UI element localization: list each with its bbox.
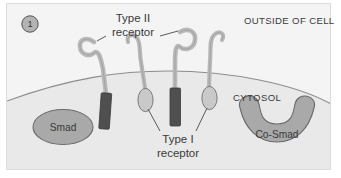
- panel-number-badge: 1: [22, 16, 38, 32]
- smad-label: Smad: [50, 122, 77, 133]
- type-i-label-line2: receptor: [157, 147, 199, 159]
- signaling-diagram: Smad Co-Smad 1 Type II receptor Type I r…: [0, 0, 341, 178]
- co-smad-label: Co-Smad: [255, 129, 298, 140]
- smad-protein[interactable]: Smad: [33, 110, 93, 145]
- type-i-receptor-right-kinase-domain: [202, 86, 217, 109]
- outside-of-cell-label: OUTSIDE OF CELL: [244, 15, 335, 26]
- figure-panel: Smad Co-Smad 1 Type II receptor Type I r…: [0, 0, 341, 178]
- type-i-label-line1: Type I: [162, 133, 193, 145]
- type-ii-receptor-left-transmembrane-domain: [99, 93, 112, 130]
- type-i-receptor-left-kinase-domain: [138, 88, 153, 111]
- type-ii-label-line2: receptor: [112, 26, 154, 38]
- cytosol-label: CYTOSOL: [233, 92, 281, 103]
- type-ii-receptor-right-transmembrane-domain: [170, 88, 181, 126]
- panel-number-label: 1: [28, 19, 33, 29]
- type-ii-label-line1: Type II: [116, 12, 151, 24]
